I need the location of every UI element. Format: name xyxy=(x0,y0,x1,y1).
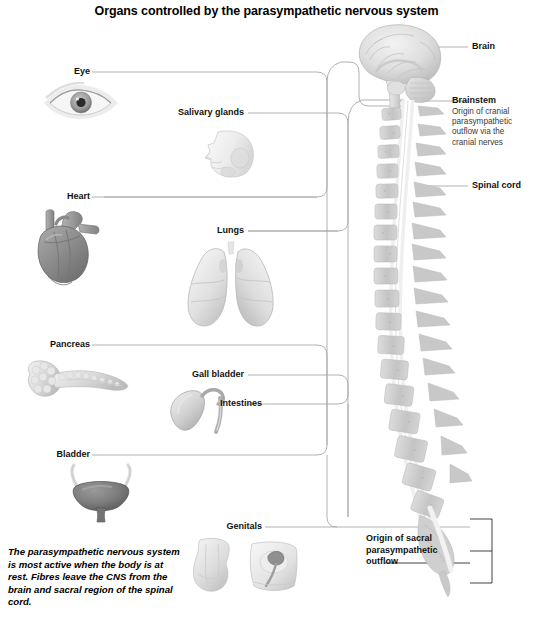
figure-caption: The parasympathetic nervous system is mo… xyxy=(8,546,180,609)
spinal-column-illustration xyxy=(352,100,492,600)
salivary-glands-illustration xyxy=(196,128,262,180)
label-genitals: Genitals xyxy=(160,521,262,532)
heart-illustration xyxy=(22,208,104,292)
label-sacral-outflow: Origin of sacral parasympathetic outflow xyxy=(366,533,466,568)
label-gall-bladder: Gall bladder xyxy=(120,369,244,380)
label-salivary-glands: Salivary glands xyxy=(108,107,244,118)
label-lungs: Lungs xyxy=(140,225,244,236)
label-brainstem-note: Origin of cranial parasympathetic outflo… xyxy=(452,107,532,148)
label-spinal-cord: Spinal cord xyxy=(472,180,521,191)
genitals-illustration xyxy=(186,536,304,596)
gall-bladder-illustration xyxy=(164,382,240,438)
diagram-canvas: Organs controlled by the parasympathetic… xyxy=(0,0,533,622)
label-pancreas: Pancreas xyxy=(2,339,90,350)
bladder-illustration xyxy=(62,462,144,524)
label-bladder: Bladder xyxy=(2,449,90,460)
label-brainstem: Brainstem xyxy=(452,95,496,106)
pancreas-illustration xyxy=(22,358,132,404)
label-brain: Brain xyxy=(472,41,495,52)
label-intestines: Intestines xyxy=(160,398,262,409)
label-eye: Eye xyxy=(2,66,90,77)
label-heart: Heart xyxy=(2,191,90,202)
lungs-illustration xyxy=(178,240,284,332)
